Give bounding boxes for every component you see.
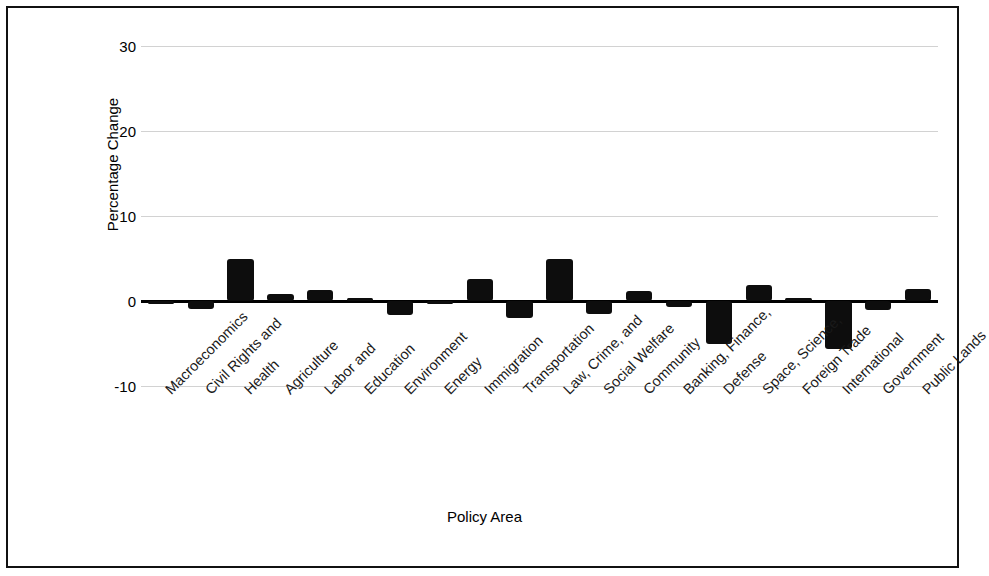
bar bbox=[467, 279, 493, 301]
y-axis-tick-4: -10 bbox=[76, 378, 136, 395]
bar bbox=[666, 301, 692, 307]
bar bbox=[746, 285, 772, 301]
bar bbox=[626, 291, 652, 301]
chart-frame: 3020100-10 Percentage Change Macroeconom… bbox=[6, 6, 959, 568]
gridline bbox=[141, 131, 938, 132]
bar bbox=[188, 301, 214, 309]
bar bbox=[347, 298, 373, 301]
gridline bbox=[141, 216, 938, 217]
y-axis-tick-3: 0 bbox=[76, 293, 136, 310]
zero-baseline bbox=[141, 300, 938, 303]
bar bbox=[865, 301, 891, 310]
bar bbox=[506, 301, 532, 318]
bar bbox=[148, 301, 174, 304]
bar bbox=[267, 294, 293, 301]
bar bbox=[546, 259, 572, 302]
bar bbox=[227, 259, 253, 302]
bar bbox=[785, 298, 811, 301]
gridline bbox=[141, 46, 938, 47]
y-axis-title: Percentage Change bbox=[104, 55, 121, 275]
x-axis-tick-labels: MacroeconomicsCivil Rights andHealthAgri… bbox=[141, 386, 938, 506]
bar bbox=[586, 301, 612, 314]
bar bbox=[905, 289, 931, 301]
bar bbox=[387, 301, 413, 315]
x-axis-title: Policy Area bbox=[8, 508, 961, 525]
bar bbox=[427, 301, 453, 304]
y-axis-tick-labels: 3020100-10 bbox=[66, 46, 136, 386]
y-axis-tick-0: 30 bbox=[76, 38, 136, 55]
bar bbox=[307, 290, 333, 301]
